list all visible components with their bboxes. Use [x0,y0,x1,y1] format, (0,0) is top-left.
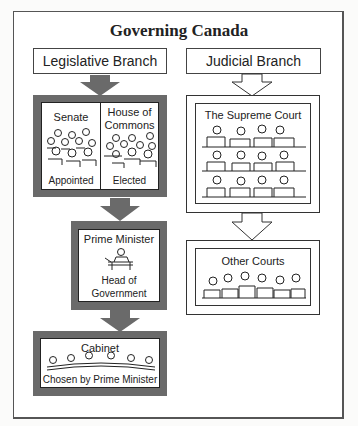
cabinet-label: Cabinet [41,342,159,354]
other-courts-label: Other Courts [196,255,310,267]
cabinet-table-icon [45,354,157,372]
senate-panel: Senate Appointed [41,102,100,190]
prime-minister-note-line1: Head of [79,275,159,286]
other-courts-frame: Other Courts [186,240,320,315]
senators-icon [46,129,98,171]
senate-note: Appointed [42,175,100,186]
cabinet-frame: Cabinet Chosen by Prime Minister [33,331,167,396]
other-courts-panel: Other Courts [195,248,311,306]
prime-minister-label: Prime Minister [79,233,159,245]
cabinet-panel: Cabinet Chosen by Prime Minister [40,338,160,388]
prime-minister-panel: Prime Minister Head of Government [78,229,160,302]
house-label-line2: Commons [101,119,158,132]
supreme-court-frame: The Supreme Court [186,95,320,213]
house-members-icon [104,135,158,173]
prime-minister-podium-icon [104,248,136,272]
house-panel: House of Commons Elected [100,102,159,190]
supreme-court-label: The Supreme Court [196,109,310,121]
senate-label: Senate [42,111,100,123]
house-label-line1: House of [101,106,158,119]
other-courts-judges-icon [202,272,306,300]
parliament-frame: Senate Appointed House of Commons Electe… [33,95,167,197]
prime-minister-frame: Prime Minister Head of Government [71,221,167,310]
cabinet-note: Chosen by Prime Minister [41,374,159,385]
supreme-court-justices-icon [202,125,306,203]
house-note: Elected [101,175,158,186]
prime-minister-note-line2: Government [79,288,159,299]
supreme-court-panel: The Supreme Court [195,103,311,204]
